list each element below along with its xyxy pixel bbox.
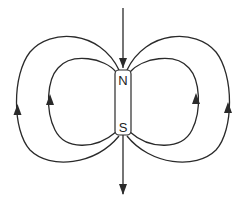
south-pole-label: S	[119, 120, 128, 135]
arrow-down-icon	[119, 58, 127, 68]
north-pole-label: N	[118, 73, 127, 88]
field-line-right-inner	[130, 58, 198, 145]
field-line-left-inner	[49, 58, 116, 145]
arrow-up-icon	[46, 94, 54, 105]
arrow-down-icon	[119, 184, 127, 195]
field-line-left-outer	[17, 36, 120, 162]
bar-magnet-field-diagram: N S	[0, 0, 242, 209]
arrow-up-icon	[14, 104, 22, 115]
arrow-up-icon	[224, 102, 232, 113]
